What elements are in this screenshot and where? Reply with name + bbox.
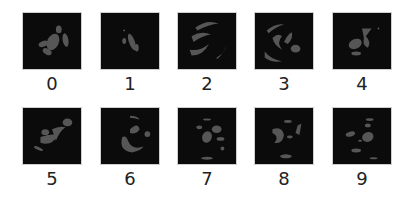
digit-blob-image-6 [101,108,159,164]
digit-blob-image-1 [101,13,159,69]
sample-label-9: 9 [332,169,392,189]
digit-blob-image-8 [255,108,313,164]
sample-label-7: 7 [177,169,237,189]
digit-blob-image-4 [333,13,391,69]
sample-image-6 [100,107,160,165]
sample-label-0: 0 [22,74,82,94]
sample-image-8 [254,107,314,165]
sample-image-4 [332,12,392,70]
digit-blob-image-3 [255,13,313,69]
sample-image-0 [22,12,82,70]
sample-image-5 [22,107,82,165]
sample-label-6: 6 [100,169,160,189]
sample-image-9 [332,107,392,165]
digit-blob-image-9 [333,108,391,164]
sample-image-1 [100,12,160,70]
sample-label-2: 2 [177,74,237,94]
digit-blob-image-0 [23,13,81,69]
sample-image-7 [177,107,237,165]
sample-label-5: 5 [22,169,82,189]
sample-image-2 [177,12,237,70]
digit-blob-image-7 [178,108,236,164]
sample-label-8: 8 [254,169,314,189]
sample-image-3 [254,12,314,70]
sample-label-1: 1 [100,74,160,94]
sample-label-3: 3 [254,74,314,94]
sample-label-4: 4 [332,74,392,94]
digit-blob-image-5 [23,108,81,164]
digit-blob-image-2 [178,13,236,69]
